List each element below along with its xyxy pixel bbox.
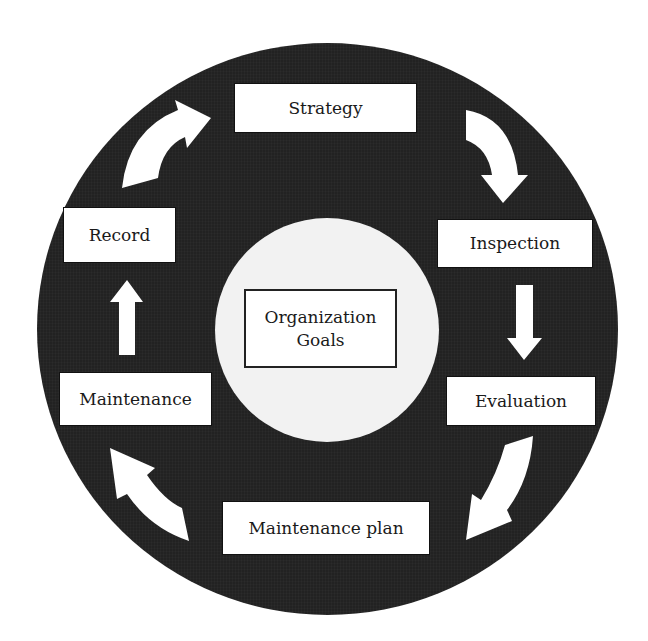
curved-arrow-maintenance-plan-to-maintenance-icon bbox=[110, 448, 189, 541]
up-arrow-maintenance-to-record-icon bbox=[110, 280, 143, 355]
maintenance-cycle-diagram: Organization Goals Strategy Inspection E… bbox=[0, 0, 648, 641]
curved-arrow-strategy-to-inspection-icon bbox=[466, 110, 528, 203]
curved-arrow-record-to-strategy-icon bbox=[122, 100, 211, 188]
curved-arrow-evaluation-to-maintenance-plan-icon bbox=[466, 436, 533, 540]
down-arrow-inspection-to-evaluation-icon bbox=[507, 285, 542, 360]
